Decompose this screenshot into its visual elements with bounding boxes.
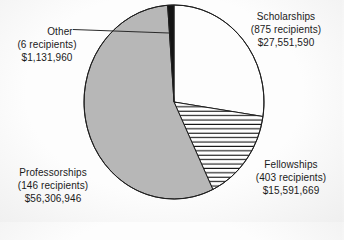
fellowships-amount: $15,591,669 [238, 184, 344, 197]
other-amount: $1,131,960 [0, 51, 94, 64]
label-fellowships: Fellowships (403 recipients) $15,591,669 [238, 158, 344, 197]
fellowships-name: Fellowships [238, 158, 344, 171]
scholarships-recipients: (875 recipients) [229, 23, 343, 36]
professorships-amount: $56,306,946 [3, 192, 103, 205]
label-other: Other (6 recipients) $1,131,960 [0, 25, 94, 64]
label-scholarships: Scholarships (875 recipients) $27,551,59… [229, 10, 343, 49]
other-recipients: (6 recipients) [0, 38, 94, 51]
label-professorships: Professorships (146 recipients) $56,306,… [3, 166, 103, 205]
fellowships-recipients: (403 recipients) [238, 171, 344, 184]
professorships-recipients: (146 recipients) [3, 179, 103, 192]
scholarships-amount: $27,551,590 [229, 36, 343, 49]
other-name: Other [13, 25, 107, 38]
scholarships-name: Scholarships [229, 10, 343, 23]
professorships-name: Professorships [3, 166, 103, 179]
pie-chart-figure: Scholarships (875 recipients) $27,551,59… [0, 0, 342, 222]
